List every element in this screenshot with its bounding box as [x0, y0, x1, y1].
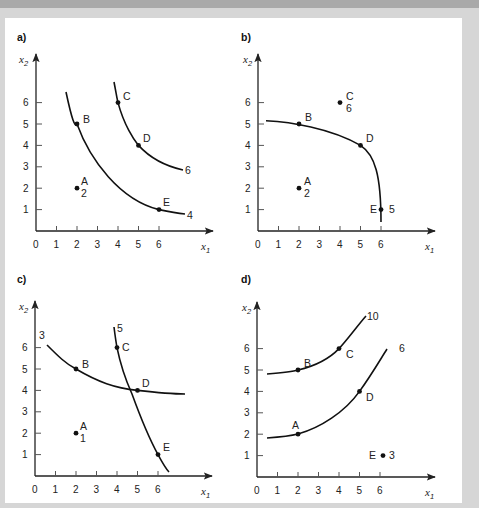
svg-text:2: 2 [81, 187, 87, 199]
points: A1 B C D E [74, 341, 170, 457]
svg-text:2: 2 [74, 239, 80, 250]
svg-text:1: 1 [23, 204, 29, 215]
svg-text:E: E [369, 449, 376, 461]
svg-text:D: D [142, 377, 150, 389]
x-ticks: 01 23 45 6 [254, 472, 383, 496]
svg-text:6: 6 [378, 239, 384, 250]
svg-text:2: 2 [73, 484, 79, 495]
svg-text:1: 1 [80, 432, 86, 444]
svg-text:C: C [346, 90, 354, 102]
svg-text:0: 0 [254, 485, 260, 496]
svg-text:1: 1 [245, 204, 251, 215]
production-frontier-5 [266, 121, 381, 222]
isoquant-3 [47, 345, 185, 394]
svg-text:6: 6 [22, 342, 28, 353]
svg-text:1: 1 [244, 450, 250, 461]
svg-text:B: B [82, 358, 89, 370]
svg-text:10: 10 [367, 310, 379, 322]
svg-text:3: 3 [245, 161, 251, 172]
svg-text:E: E [163, 441, 170, 453]
y-ticks: 12 34 56 [244, 343, 263, 461]
svg-text:3: 3 [95, 239, 101, 250]
svg-text:2: 2 [296, 239, 302, 250]
svg-text:3: 3 [23, 161, 29, 172]
svg-text:C: C [122, 341, 130, 353]
svg-text:A: A [81, 175, 88, 187]
svg-text:A: A [80, 420, 87, 432]
svg-text:5: 5 [357, 485, 363, 496]
svg-text:B: B [83, 113, 90, 125]
svg-text:5: 5 [389, 203, 395, 215]
x-ticks: 01 23 45 6 [33, 226, 162, 250]
svg-text:4: 4 [244, 386, 250, 397]
svg-text:5: 5 [358, 239, 364, 250]
svg-text:6: 6 [23, 97, 29, 108]
svg-text:D: D [366, 391, 374, 403]
svg-text:0: 0 [255, 239, 261, 250]
svg-text:3: 3 [22, 406, 28, 417]
y-axis-label: x2 [18, 53, 29, 68]
y-axis-label: x2 [241, 301, 252, 316]
svg-text:1: 1 [54, 239, 60, 250]
svg-text:5: 5 [244, 365, 250, 376]
svg-text:6: 6 [185, 164, 191, 176]
svg-text:0: 0 [33, 239, 39, 250]
svg-text:5: 5 [22, 364, 28, 375]
svg-text:D: D [366, 132, 374, 144]
y-ticks: 12 34 56 [22, 342, 41, 460]
svg-text:4: 4 [245, 140, 251, 151]
svg-text:1: 1 [276, 239, 282, 250]
panel-title: c) [17, 273, 26, 285]
svg-text:6: 6 [155, 484, 161, 495]
svg-text:C: C [123, 90, 131, 102]
svg-text:B: B [304, 357, 311, 369]
svg-text:E: E [370, 203, 377, 215]
svg-text:4: 4 [115, 239, 121, 250]
svg-text:5: 5 [136, 239, 142, 250]
y-ticks: 12 34 56 [23, 97, 42, 215]
svg-text:6: 6 [245, 97, 251, 108]
x-ticks: 01 23 45 6 [32, 471, 161, 495]
svg-text:4: 4 [23, 140, 29, 151]
svg-text:6: 6 [346, 102, 352, 114]
x-axis-label: x1 [200, 485, 210, 500]
y-axis-label: x2 [242, 53, 253, 68]
svg-text:4: 4 [22, 385, 28, 396]
svg-text:4: 4 [187, 209, 193, 221]
svg-text:5: 5 [117, 322, 123, 334]
svg-text:2: 2 [244, 429, 250, 440]
svg-text:2: 2 [245, 183, 251, 194]
points: A B C D E3 [292, 346, 395, 461]
panel-b: b) x2 x1 01 23 45 6 12 34 56 A2 B C6 D [241, 31, 435, 255]
panel-title: d) [241, 273, 251, 285]
svg-text:B: B [305, 111, 312, 123]
x-axis-label: x1 [200, 240, 210, 255]
y-ticks: 12 34 56 [245, 97, 264, 215]
svg-text:0: 0 [32, 484, 38, 495]
svg-text:1: 1 [275, 485, 281, 496]
panel-d: d) x2 x1 01 23 45 6 12 34 56 10 6 A B [241, 273, 435, 501]
y-axis-label: x2 [18, 300, 29, 315]
svg-text:A: A [304, 175, 311, 187]
panel-a: a) x2 x1 01 23 45 6 12 34 56 4 6 A2 B [17, 31, 213, 255]
panel-title: b) [241, 31, 251, 43]
svg-text:2: 2 [304, 187, 310, 199]
x-ticks: 01 23 45 6 [255, 226, 384, 250]
x-axis-label: x1 [424, 240, 434, 255]
svg-text:4: 4 [337, 239, 343, 250]
svg-text:4: 4 [114, 484, 120, 495]
svg-text:2: 2 [295, 485, 301, 496]
svg-text:6: 6 [399, 342, 405, 354]
svg-text:6: 6 [156, 239, 162, 250]
svg-text:3: 3 [244, 407, 250, 418]
svg-text:6: 6 [377, 485, 383, 496]
svg-text:3: 3 [389, 449, 395, 461]
svg-text:2: 2 [23, 183, 29, 194]
figure-svg: a) x2 x1 01 23 45 6 12 34 56 4 6 A2 B [0, 0, 479, 508]
svg-text:4: 4 [336, 485, 342, 496]
x-axis-label: x1 [424, 486, 434, 501]
svg-text:3: 3 [39, 329, 45, 341]
svg-text:1: 1 [22, 449, 28, 460]
svg-text:3: 3 [94, 484, 100, 495]
panel-c: c) x2 x1 01 23 45 6 12 34 56 3 5 A1 B [17, 273, 212, 500]
